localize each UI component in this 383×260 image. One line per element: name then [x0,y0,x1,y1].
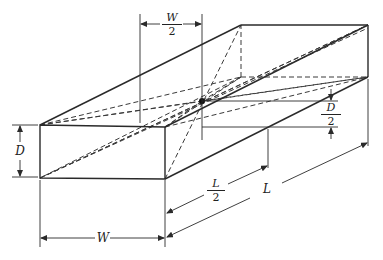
depth-label: D [13,145,27,157]
length-label: L [260,183,274,195]
box-drawing [0,0,383,260]
width-label: W [96,232,110,244]
box-diagram: W 2 D 2 D W L 2 L [0,0,383,260]
half-width-label: W 2 [162,12,182,37]
half-depth-label: D 2 [321,102,341,127]
half-depth-dimension [202,89,338,139]
half-length-label: L 2 [207,178,225,203]
